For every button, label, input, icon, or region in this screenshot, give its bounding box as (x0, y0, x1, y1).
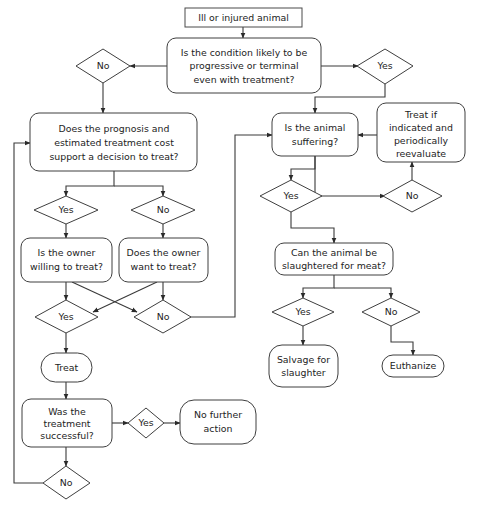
node-prognosis-label-2: estimated treatment cost (54, 137, 174, 148)
edge-prognosis-split-right (114, 186, 163, 196)
node-treat-if-indicated[interactable]: Treat if indicated and periodically reev… (377, 103, 465, 162)
node-nofurther-label-1: No further (194, 409, 242, 420)
node-treatif-label-1: Treat if (404, 109, 438, 120)
node-successful-no[interactable]: No (43, 466, 90, 499)
node-condition-no[interactable]: No (76, 49, 130, 83)
edge-sufferingyes-to-slaughtered (291, 212, 334, 243)
node-start[interactable]: Ill or injured animal (185, 8, 302, 27)
edge-suffering-to-yes (291, 156, 315, 180)
node-prognosis-yes[interactable]: Yes (34, 196, 98, 224)
node-condition-yes[interactable]: Yes (357, 49, 413, 84)
node-slaughter-no-label: No (385, 306, 398, 317)
node-suffering-no[interactable]: No (383, 180, 442, 212)
node-slaughter-no[interactable]: No (362, 298, 420, 326)
node-suffering-yes-label: Yes (282, 190, 298, 201)
node-treatif-label-3: periodically (394, 135, 449, 146)
node-prognosis-label-3: support a decision to treat? (49, 151, 178, 162)
node-owner-yes[interactable]: Yes (35, 300, 98, 333)
edge-suffering-to-no (315, 156, 385, 196)
node-treatif-label-4: reevaluate (396, 148, 446, 159)
edge-slaughterno-to-euthanize (391, 326, 413, 355)
node-slaughtered-label-2: slaughtered for meat? (282, 260, 386, 271)
edge-prognosis-split (66, 171, 114, 196)
node-owner-willing-label-1: Is the owner (38, 247, 96, 258)
node-treat[interactable]: Treat (41, 353, 92, 382)
node-owner-willing-label-2: willing to treat? (30, 261, 103, 272)
flowchart-svg: Ill or injured animal Is the condition l… (0, 0, 480, 506)
node-prognosis-no-label: No (157, 204, 170, 215)
node-condition-no-label: No (97, 60, 110, 71)
node-prognosis-yes-label: Yes (57, 204, 73, 215)
node-owner-no-label: No (157, 311, 170, 322)
edge-slaughtered-split-right (334, 288, 391, 298)
node-slaughter-yes[interactable]: Yes (272, 298, 334, 326)
node-start-label: Ill or injured animal (198, 12, 289, 23)
node-slaughtered-label-1: Can the animal be (291, 247, 377, 258)
flowchart-canvas: Ill or injured animal Is the condition l… (0, 0, 480, 506)
node-successful-no-label: No (60, 477, 73, 488)
node-owner-yes-label: Yes (57, 311, 73, 322)
node-suffering-label-1: Is the animal (285, 122, 346, 133)
node-salvage[interactable]: Salvage for slaughter (269, 345, 338, 387)
node-successful-label-1: Was the (48, 406, 86, 417)
node-suffering-no-label: No (406, 190, 419, 201)
node-slaughtered[interactable]: Can the animal be slaughtered for meat? (275, 243, 393, 275)
node-owner-want[interactable]: Does the owner want to treat? (119, 238, 208, 282)
node-suffering[interactable]: Is the animal suffering? (272, 113, 358, 156)
edge-ownerwilling-to-no (72, 282, 137, 312)
node-condition-label-2: progressive or terminal (189, 60, 298, 71)
node-owner-no[interactable]: No (134, 300, 191, 333)
node-successful-yes-label: Yes (137, 417, 153, 428)
node-owner-want-label-1: Does the owner (127, 247, 201, 258)
node-prognosis-no[interactable]: No (131, 196, 195, 224)
node-prognosis-label-1: Does the prognosis and (59, 123, 170, 134)
node-treatment-successful[interactable]: Was the treatment successful? (22, 399, 112, 447)
node-euthanize[interactable]: Euthanize (382, 355, 444, 377)
node-condition-label-1: Is the condition likely to be (181, 47, 308, 58)
node-successful-yes[interactable]: Yes (128, 408, 164, 438)
edge-ownerwant-to-yes (93, 282, 157, 312)
node-successful-label-3: successful? (40, 430, 94, 441)
node-nofurther-label-2: action (204, 423, 233, 434)
node-euthanize-label: Euthanize (390, 360, 437, 371)
edge-yes-to-suffering (315, 84, 385, 113)
node-treatif-label-2: indicated and (389, 122, 453, 133)
node-condition[interactable]: Is the condition likely to be progressiv… (167, 38, 321, 93)
node-condition-yes-label: Yes (376, 60, 392, 71)
node-suffering-label-2: suffering? (292, 136, 338, 147)
node-suffering-yes[interactable]: Yes (260, 180, 322, 212)
node-owner-willing[interactable]: Is the owner willing to treat? (21, 238, 112, 282)
edge-slaughtered-split-left (303, 275, 334, 298)
node-owner-want-label-2: want to treat? (131, 261, 197, 272)
node-slaughter-yes-label: Yes (294, 306, 310, 317)
edge-ownerno-to-suffering (190, 135, 272, 317)
node-salvage-label-2: slaughter (281, 367, 326, 378)
node-treat-label: Treat (54, 362, 79, 373)
node-no-further-action[interactable]: No further action (180, 400, 256, 444)
node-condition-label-3: even with treatment? (194, 74, 295, 85)
node-salvage-label-1: Salvage for (277, 354, 330, 365)
node-successful-label-2: treatment (43, 418, 90, 429)
node-prognosis[interactable]: Does the prognosis and estimated treatme… (30, 113, 197, 171)
